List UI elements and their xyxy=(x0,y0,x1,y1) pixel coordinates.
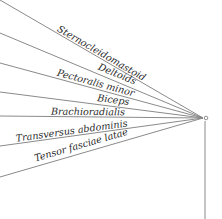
muscle-label: Brachioradialis xyxy=(50,106,125,118)
hub-marker-icon xyxy=(204,116,208,120)
muscle-fan-diagram: SternocleidomastoidDeltoidsPectoralis mi… xyxy=(0,0,222,219)
